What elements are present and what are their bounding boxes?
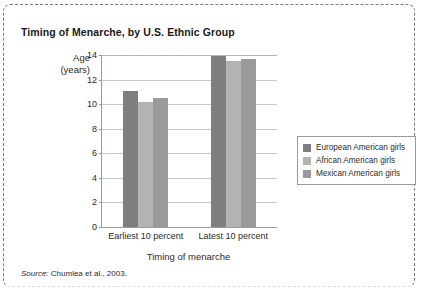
bar [123, 91, 138, 227]
y-axis-tick-label: 6 [92, 148, 97, 158]
bar-group: Latest 10 percent [211, 55, 256, 227]
bar [138, 102, 153, 227]
y-axis-tick-mark [99, 80, 102, 81]
y-axis-tick-mark [99, 129, 102, 130]
legend-swatch-icon [303, 170, 311, 178]
legend-item: African American girls [303, 154, 411, 167]
legend-swatch-icon [303, 144, 311, 152]
bar [226, 61, 241, 227]
source-citation: Chumlea et al., 2003. [49, 269, 127, 278]
plot-area: 02468101214Earliest 10 percentLatest 10 … [101, 55, 277, 228]
x-axis-tick-label: Latest 10 percent [198, 231, 268, 241]
legend-label: European American girls [316, 143, 405, 152]
chart-title: Timing of Menarche, by U.S. Ethnic Group [21, 26, 235, 38]
y-axis-tick-mark [99, 153, 102, 154]
bar-group: Earliest 10 percent [123, 55, 168, 227]
legend-swatch-icon [303, 157, 311, 165]
bar [241, 59, 256, 227]
x-axis-tick-label: Earliest 10 percent [108, 231, 183, 241]
y-axis-tick-label: 2 [92, 197, 97, 207]
y-axis-tick-label: 10 [87, 99, 97, 109]
y-axis-tick-mark [99, 202, 102, 203]
y-axis-tick-mark [99, 104, 102, 105]
source-label: Source: [21, 269, 49, 278]
legend-item: Mexican American girls [303, 167, 411, 180]
y-axis-tick-label: 4 [92, 173, 97, 183]
legend-label: Mexican American girls [316, 169, 400, 178]
x-axis-label: Timing of menarche [101, 251, 276, 262]
bar [153, 98, 168, 227]
y-axis-label-line2: (years) [28, 64, 90, 76]
y-axis-tick-label: 8 [92, 124, 97, 134]
figure-panel: Timing of Menarche, by U.S. Ethnic Group… [3, 4, 415, 287]
bar [211, 56, 226, 227]
legend-label: African American girls [316, 156, 395, 165]
y-axis-label-line1: Age [28, 52, 90, 64]
y-axis-tick-mark [99, 178, 102, 179]
y-axis-tick-mark [99, 55, 102, 56]
y-axis-tick-label: 0 [92, 222, 97, 232]
y-axis-tick-label: 14 [87, 50, 97, 60]
y-axis-tick-label: 12 [87, 75, 97, 85]
source-note: Source: Chumlea et al., 2003. [21, 269, 127, 278]
chart-legend: European American girlsAfrican American … [297, 136, 416, 185]
y-axis-tick-mark [99, 227, 102, 228]
y-axis-label: Age (years) [28, 52, 90, 75]
legend-item: European American girls [303, 141, 411, 154]
